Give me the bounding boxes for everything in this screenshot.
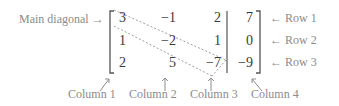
cell-r2-c3: 1: [197, 33, 221, 49]
arrow-left-icon: ←: [270, 55, 282, 69]
cell-r1-c2: −1: [152, 10, 176, 26]
row-2-label: ← Row 2: [270, 33, 317, 47]
right-bracket: [256, 11, 260, 73]
cell-r3-c1: 2: [102, 55, 126, 71]
cell-r3-c3: −7: [197, 55, 221, 71]
cell-r3-c4: −9: [229, 55, 253, 71]
row-1-label: ← Row 1: [270, 11, 317, 25]
row-3-label: ← Row 3: [270, 55, 317, 69]
arrow-left-icon: ←: [270, 33, 282, 47]
cell-r2-c4: 0: [229, 33, 253, 49]
main-diagonal-label: Main diagonal →: [19, 12, 104, 26]
cell-r1-c3: 2: [197, 10, 221, 26]
cell-r2-c2: −2: [152, 33, 176, 49]
arrow-left-icon: ←: [270, 11, 282, 25]
cell-r1-c1: 3: [102, 10, 126, 26]
column-1-label: Column 1: [68, 87, 116, 101]
cell-r1-c4: 7: [229, 10, 253, 26]
cell-r2-c1: 1: [102, 33, 126, 49]
cell-r3-c2: 5: [152, 55, 176, 71]
column-4-label: Column 4: [251, 87, 299, 101]
column-3-label: Column 3: [190, 87, 238, 101]
column-2-label: Column 2: [129, 87, 177, 101]
